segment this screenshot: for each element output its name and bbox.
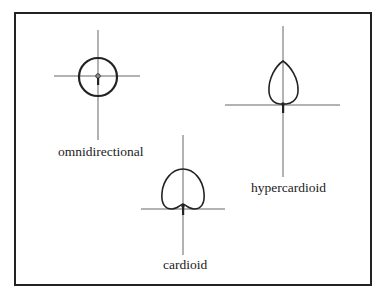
cardioid-pattern — [141, 135, 225, 255]
hypercardioid-label: hypercardioid — [251, 180, 326, 196]
omnidirectional-label: omnidirectional — [58, 144, 143, 160]
omnidirectional-pattern — [54, 30, 140, 140]
hypercardioid-pattern — [225, 26, 340, 177]
microphone-body-icon — [182, 207, 184, 215]
microphone-body-icon — [97, 78, 99, 85]
cardioid-label: cardioid — [163, 257, 207, 273]
microphone-body-icon — [282, 105, 284, 113]
